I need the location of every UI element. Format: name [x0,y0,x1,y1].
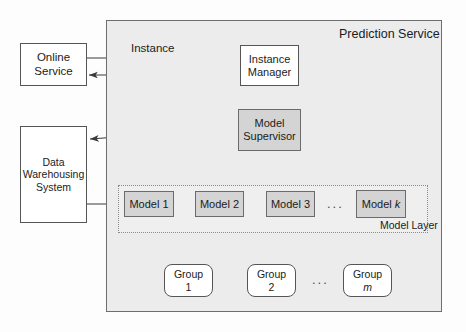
ellipsis-groups: ... [312,272,329,287]
node-group-m-line-1: Group [353,268,382,280]
node-model-supervisor[interactable]: Model Supervisor [238,109,301,151]
node-group-1-line-2: 1 [186,281,192,293]
node-model-supervisor-line-2: Supervisor [243,130,296,143]
ellipsis-models: ... [327,196,344,211]
node-data-warehousing-line-1: Data [42,156,64,168]
node-instance-manager-line-1: Instance [249,53,291,66]
container-model-layer-label: Model Layer [380,219,438,231]
node-model-k-label: Model k [362,198,401,211]
node-data-warehousing-line-2: Warehousing [23,168,84,180]
node-group-2-line-1: Group [257,268,286,280]
node-model-supervisor-line-1: Model [255,117,285,130]
node-online-service[interactable]: Online Service [20,43,87,86]
node-group-m-line-2: m [363,281,372,293]
node-model-1[interactable]: Model 1 [124,191,174,217]
node-data-warehousing-system[interactable]: Data Warehousing System [20,126,87,223]
node-model-2[interactable]: Model 2 [195,191,244,217]
edge-label-instance: Instance [131,42,174,54]
node-model-2-label: Model 2 [200,198,239,211]
node-model-k-suffix: k [395,198,401,210]
node-model-k-prefix: Model [362,198,395,210]
node-model-3-label: Model 3 [271,198,310,211]
node-group-1-line-1: Group [174,268,203,280]
node-group-2[interactable]: Group 2 [247,264,296,297]
node-model-k[interactable]: Model k [356,190,406,218]
node-group-2-line-2: 2 [269,281,275,293]
diagram-canvas: Prediction Service Instance Model Layer … [0,0,466,332]
node-online-service-line-2: Service [34,65,72,79]
node-group-m[interactable]: Group m [343,264,392,297]
node-model-1-label: Model 1 [129,198,168,211]
node-instance-manager-line-2: Manager [248,66,291,79]
node-data-warehousing-line-3: System [36,181,71,193]
node-model-3[interactable]: Model 3 [266,191,315,217]
node-group-1[interactable]: Group 1 [164,264,213,297]
node-online-service-line-1: Online [37,51,70,65]
node-instance-manager[interactable]: Instance Manager [240,45,299,86]
container-prediction-service-label: Prediction Service [339,27,440,41]
